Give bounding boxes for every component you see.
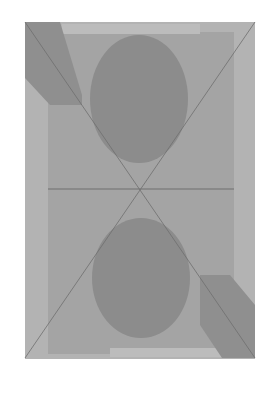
top-light-band: [62, 24, 200, 34]
bottom-light-band: [110, 348, 222, 357]
bottom-circle: [92, 218, 190, 338]
top-circle: [90, 35, 188, 163]
abstract-composition: [0, 0, 279, 394]
